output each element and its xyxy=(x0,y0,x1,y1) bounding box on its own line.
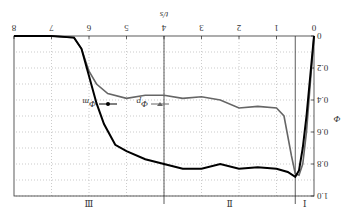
x-tick-label: 2 xyxy=(237,23,242,33)
x-tick-label: 6 xyxy=(86,23,91,33)
y-tick-label: 0.6 xyxy=(317,127,329,137)
x-tick-label: 5 xyxy=(124,23,129,33)
legend-label: Φ xyxy=(89,99,96,109)
region-label: Ⅰ xyxy=(302,198,306,208)
legend-circle-marker-icon xyxy=(106,102,110,106)
y-tick-label: 0 xyxy=(317,31,322,41)
y-tick-label: 0.2 xyxy=(317,63,328,73)
region-label: Ⅲ xyxy=(84,198,93,208)
x-tick-label: 4 xyxy=(161,23,166,33)
y-tick-label: 0.8 xyxy=(317,159,329,169)
legend-label: Φ xyxy=(141,99,148,109)
x-axis-label: t/s xyxy=(159,10,168,20)
x-tick-label: 3 xyxy=(199,23,204,33)
y-tick-label: 0.4 xyxy=(317,95,329,105)
y-tick-label: 1.0 xyxy=(317,191,329,201)
region-label: Ⅱ xyxy=(227,198,233,208)
x-tick-label: 1 xyxy=(274,23,279,33)
y-axis-label: Φ xyxy=(333,114,340,124)
x-tick-label: 7 xyxy=(49,23,54,33)
x-tick-label: 0 xyxy=(311,23,316,33)
x-tick-label: 8 xyxy=(11,23,16,33)
chart-rotated: ⅠⅡⅢ01234567800.20.40.60.81.0t/sΦΦpΦm xyxy=(0,0,351,214)
legend-sub: m xyxy=(82,97,89,107)
line-chart: ⅠⅡⅢ01234567800.20.40.60.81.0t/sΦΦpΦm xyxy=(0,0,351,214)
